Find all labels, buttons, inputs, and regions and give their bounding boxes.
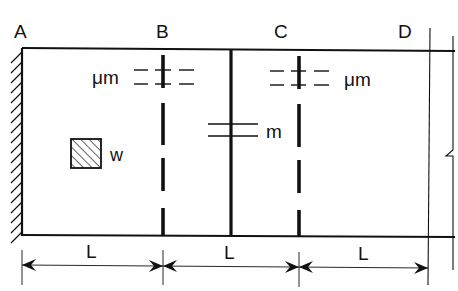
fixed-support-wall: [11, 48, 22, 243]
dim-label-2: L: [224, 242, 235, 263]
label-c: C: [274, 21, 288, 42]
mid-mass-label: m: [266, 121, 282, 142]
load-w-label: w: [109, 145, 124, 165]
top-edge: [22, 48, 455, 51]
mid-mass-marks: [208, 124, 258, 136]
label-b: B: [156, 21, 169, 42]
break-line-right: [446, 36, 453, 270]
c-mass-label: μm: [344, 69, 371, 90]
b-mass-label: μm: [92, 67, 119, 88]
dim-label-3: L: [358, 243, 369, 264]
label-d: D: [398, 21, 412, 42]
bottom-edge: [22, 235, 455, 237]
structural-diagram: A B C D: [0, 0, 458, 291]
line-d: [428, 28, 430, 285]
load-w-box: [71, 139, 101, 168]
dim-label-1: L: [86, 241, 97, 262]
label-a: A: [14, 21, 27, 42]
